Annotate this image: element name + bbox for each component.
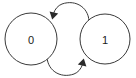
state-node-0-label: 0 (28, 34, 34, 46)
state-node-1-label: 1 (102, 34, 108, 46)
transition-1-to-0 (50, 3, 89, 24)
state-diagram-canvas: 0 1 (0, 0, 136, 78)
transition-1-to-0-arrowhead (50, 12, 59, 20)
transition-1-to-0-path (54, 3, 90, 24)
transition-0-to-1 (47, 54, 86, 75)
state-diagram-svg: 0 1 (0, 0, 136, 78)
transition-0-to-1-arrowhead (78, 59, 87, 67)
state-node-0[interactable]: 0 (5, 13, 57, 65)
state-node-1[interactable]: 1 (80, 14, 130, 64)
transition-0-to-1-path (47, 54, 83, 75)
